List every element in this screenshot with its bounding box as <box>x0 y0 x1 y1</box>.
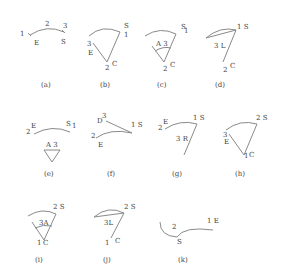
arc-a <box>30 29 64 35</box>
label-e: E <box>88 49 93 57</box>
arc-g <box>165 122 197 129</box>
label-2: 2 <box>91 132 95 140</box>
label-s: S <box>61 38 66 46</box>
label-1: 1 <box>105 239 109 247</box>
label-1s: 1 S <box>193 114 205 122</box>
label-a3: A 3 <box>45 141 58 149</box>
label-e: E <box>163 118 168 126</box>
label-2: 2 <box>172 223 176 231</box>
label-e: E <box>224 138 229 146</box>
panel-k: 2 S 1 E (k) <box>160 217 219 264</box>
line-2-1 <box>107 32 120 62</box>
panel-h: 2 S 3 E 1 C (h) <box>223 114 268 178</box>
label-2: 2 <box>105 64 109 72</box>
label-e: E <box>98 141 103 149</box>
caption-h: (h) <box>235 170 245 178</box>
label-e: E <box>34 39 39 47</box>
line-i-right <box>44 214 56 240</box>
panel-g: 2 E 1 S 3 R (g) <box>158 114 205 178</box>
label-c: C <box>43 239 48 247</box>
label-3l: 3 L <box>214 42 226 50</box>
diagram-canvas: 1 E 2 3 S (a) S 1 3 E 2 C (b) S 1 A 3 2 … <box>0 0 281 274</box>
label-s: S <box>124 22 129 30</box>
label-3: 3 <box>87 40 91 48</box>
panel-c: S 1 A 3 2 C (c) <box>145 23 188 89</box>
label-2: 2 <box>45 20 49 28</box>
label-2: 2 <box>163 65 167 73</box>
arc-b <box>89 29 120 36</box>
label-3: 3 <box>102 112 106 120</box>
label-1s: 1 S <box>237 23 249 31</box>
label-2s: 2 S <box>124 203 136 211</box>
caption-g: (g) <box>172 170 182 178</box>
label-c: C <box>115 237 120 245</box>
caption-a: (a) <box>41 81 51 89</box>
label-2s: 2 S <box>53 203 65 211</box>
panel-a: 1 E 2 3 S (a) <box>20 20 67 89</box>
label-1: 1 <box>184 27 188 35</box>
panel-e: 2 E S 1 A 3 (e) <box>26 120 76 178</box>
label-2: 2 <box>26 128 30 136</box>
caption-c: (c) <box>157 81 167 89</box>
label-c: C <box>230 62 235 70</box>
label-1: 1 <box>124 31 128 39</box>
label-3l: 3L <box>104 219 113 227</box>
caption-d: (d) <box>215 81 225 89</box>
label-1: 1 <box>37 239 41 247</box>
label-c: C <box>249 151 254 159</box>
s-curve-k <box>160 222 213 237</box>
label-2: 2 <box>223 66 227 74</box>
triangle-e <box>44 150 60 162</box>
caption-j: (j) <box>103 256 111 264</box>
label-1: 1 <box>244 152 248 160</box>
label-c: C <box>112 60 117 68</box>
label-2: 2 <box>158 124 162 132</box>
panel-b: S 1 3 E 2 C (b) <box>87 22 129 89</box>
line-3-2 <box>93 43 107 62</box>
label-1e: 1 E <box>207 217 219 225</box>
label-3r: 3 R <box>176 135 189 143</box>
arc-c <box>145 30 176 36</box>
caption-f: (f) <box>107 170 115 178</box>
label-1: 1 <box>72 122 76 130</box>
label-2s: 2 S <box>256 114 268 122</box>
caption-i: (i) <box>35 256 43 264</box>
caption-b: (b) <box>100 81 110 89</box>
label-c: C <box>170 61 175 69</box>
line-3-1-h <box>229 134 244 155</box>
arc-i <box>28 211 56 216</box>
label-1: 1 <box>20 30 24 38</box>
label-3a: 3A <box>39 219 49 227</box>
arc-e <box>34 128 70 134</box>
panel-f: D 3 1 S 2 E (f) <box>91 112 143 178</box>
caption-e: (e) <box>44 170 54 178</box>
label-s: S <box>66 120 71 128</box>
caption-k: (k) <box>178 256 188 264</box>
label-a3: A 3 <box>155 40 168 48</box>
arc-h <box>226 122 257 130</box>
arc-f <box>96 131 132 138</box>
label-e: E <box>31 122 36 130</box>
panel-j: 2 S 3L 1 C (j) <box>94 203 136 264</box>
label-1s: 1 S <box>131 121 143 129</box>
label-s: S <box>177 238 182 246</box>
label-3: 3 <box>63 22 67 30</box>
panel-i: 2 S 3A 1 C (i) <box>28 203 65 264</box>
panel-d: 1 S 3 L 2 C (d) <box>206 23 249 89</box>
